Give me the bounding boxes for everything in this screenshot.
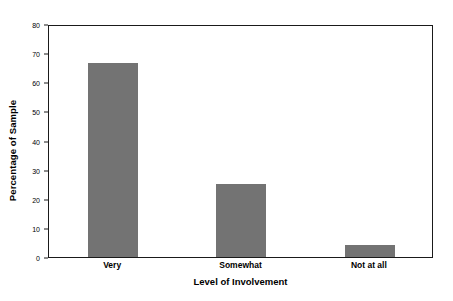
plot-area <box>48 25 433 258</box>
y-axis-title: Percentage of Sample <box>0 0 24 301</box>
y-tick-label: 10 <box>32 225 40 232</box>
bar <box>88 63 138 257</box>
y-tick-label: 40 <box>32 138 40 145</box>
y-tick-label: 20 <box>32 196 40 203</box>
x-axis-title: Level of Involvement <box>48 276 433 287</box>
y-tick-label: 0 <box>36 255 40 262</box>
bar-slot <box>177 26 305 257</box>
x-tick-label: Very <box>103 260 121 270</box>
x-axis-tick-labels: VerySomewhatNot at all <box>48 260 433 276</box>
x-tick-label: Not at all <box>351 260 387 270</box>
y-axis-tick-labels: 01020304050607080 <box>24 25 44 258</box>
bar <box>216 184 266 257</box>
bar-slot <box>49 26 177 257</box>
y-tick-label: 60 <box>32 80 40 87</box>
bar-chart: Percentage of Sample 01020304050607080 V… <box>0 0 453 301</box>
bar <box>345 245 395 257</box>
y-tick-label: 50 <box>32 109 40 116</box>
y-tick-label: 80 <box>32 22 40 29</box>
bars-layer <box>49 26 432 257</box>
y-tick-label: 70 <box>32 51 40 58</box>
x-tick-label: Somewhat <box>219 260 262 270</box>
bar-slot <box>306 26 433 257</box>
y-tick-label: 30 <box>32 167 40 174</box>
